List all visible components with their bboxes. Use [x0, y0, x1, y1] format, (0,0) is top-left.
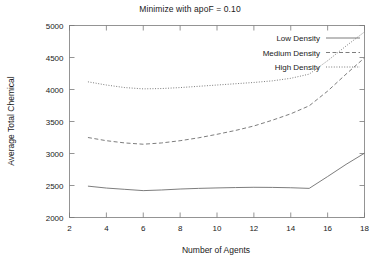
x-tick-label: 2 [67, 224, 72, 233]
legend-label-1: Medium Density [263, 49, 320, 58]
y-tick-label: 4500 [46, 54, 64, 63]
x-axis-title: Number of Agents [182, 245, 250, 255]
chart-figure: Minimize with apoF = 0.10 20002500300035… [0, 0, 380, 267]
x-tick-label: 12 [249, 224, 258, 233]
y-axis-title: Average Total Chemical [6, 76, 16, 166]
x-axis-tick-labels: 24681012141618 [67, 224, 369, 233]
x-tick-label: 14 [286, 224, 295, 233]
y-tick-label: 5000 [46, 22, 64, 31]
y-tick-label: 3000 [46, 150, 64, 159]
y-tick-label: 2000 [46, 214, 64, 223]
x-tick-label: 10 [213, 224, 222, 233]
y-axis-tick-labels: 2000250030003500400045005000 [46, 22, 64, 223]
chart-legend: Low DensityMedium DensityHigh Density [263, 34, 360, 72]
legend-label-0: Low Density [276, 34, 320, 43]
x-tick-label: 4 [104, 224, 109, 233]
data-series-group [88, 32, 365, 191]
plot-area: 2000250030003500400045005000 24681012141… [0, 0, 380, 267]
x-tick-label: 16 [323, 224, 332, 233]
x-tick-label: 8 [178, 224, 183, 233]
y-tick-label: 2500 [46, 182, 64, 191]
legend-label-2: High Density [275, 63, 320, 72]
y-tick-label: 3500 [46, 118, 64, 127]
series-line-0 [88, 153, 365, 190]
series-line-2 [88, 32, 365, 89]
series-line-1 [88, 58, 365, 144]
x-tick-label: 6 [141, 224, 146, 233]
y-tick-label: 4000 [46, 86, 64, 95]
x-tick-label: 18 [360, 224, 369, 233]
